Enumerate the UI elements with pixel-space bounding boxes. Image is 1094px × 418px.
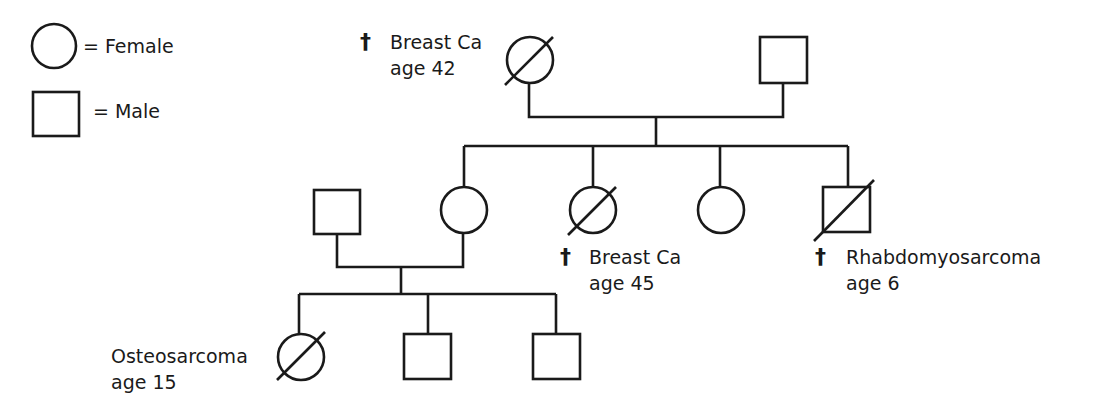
gen2-age-2: age 6 <box>846 271 900 295</box>
gen2-couple-line <box>337 233 463 267</box>
gen2-diagnosis-2: Rhabdomyosarcoma <box>846 245 1041 269</box>
legend-female-symbol <box>32 24 76 68</box>
gen3-diagnosis: Osteosarcoma <box>111 344 248 368</box>
legend-male-label: = Male <box>93 99 160 123</box>
gen3-age: age 15 <box>111 370 177 394</box>
gen2-spouse-male <box>314 190 360 234</box>
gen3-male-2 <box>533 334 580 379</box>
gen2-female-2 <box>698 187 744 233</box>
gen2-diagnosis: Breast Ca <box>589 245 681 269</box>
gen2-female <box>441 187 487 233</box>
gen1-age: age 42 <box>390 56 456 80</box>
deceased-dagger-icon: † <box>360 30 371 54</box>
deceased-dagger-icon: † <box>815 245 826 269</box>
gen3-male <box>404 334 451 379</box>
gen1-couple-line <box>529 83 783 117</box>
deceased-dagger-icon: † <box>560 245 571 269</box>
legend-female-label: = Female <box>83 34 174 58</box>
legend-male-symbol <box>33 92 79 136</box>
gen1-diagnosis: Breast Ca <box>390 30 482 54</box>
gen2-age: age 45 <box>589 271 655 295</box>
gen1-male <box>760 37 807 83</box>
